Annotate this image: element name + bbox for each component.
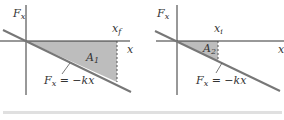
panel-right: Fx xi x A2 Fx = −kx [155, 5, 284, 95]
marker-label-xi: xi [214, 22, 223, 36]
x-axis-label: x [278, 43, 284, 56]
leader-line [216, 63, 222, 73]
line-equation-label: Fx = −kx [43, 74, 95, 88]
y-axis-label: Fx [156, 7, 170, 21]
line-equation-label: Fx = −kx [195, 74, 247, 88]
x-axis-label: x [127, 43, 134, 56]
marker-label-xf: xf [112, 22, 123, 36]
bottom-divider [3, 111, 282, 114]
y-axis-label: Fx [12, 7, 26, 21]
leader-line [62, 63, 70, 74]
panel-left: Fx xf x A1 Fx = −kx [0, 5, 134, 95]
spring-force-diagram: Fx xf x A1 Fx = −kx Fx xi x A2 Fx = −kx [0, 0, 284, 120]
